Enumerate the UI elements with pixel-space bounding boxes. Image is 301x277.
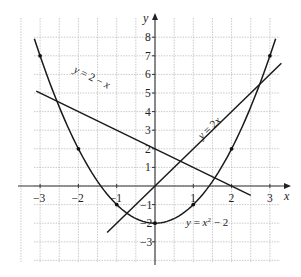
y-tick-label: −1 (140, 199, 152, 211)
series-y-2x (107, 63, 281, 232)
label-parabola: y = x2 − 2 (185, 216, 228, 228)
data-point (230, 147, 234, 151)
x-tick-label: 2 (229, 192, 235, 204)
data-point (268, 54, 272, 58)
data-point (191, 203, 195, 207)
y-tick-label: −3 (140, 236, 152, 248)
series-y-2-x (36, 91, 250, 195)
y-axis-arrow-icon (152, 13, 158, 20)
y-tick-label: 7 (145, 50, 151, 62)
x-tick-label: −3 (33, 192, 45, 204)
y-tick-label: 5 (145, 87, 151, 99)
data-point (38, 54, 42, 58)
function-graph: −3−2−1123−3−2−112345678 x y y = 2 − x y … (0, 0, 301, 277)
x-tick-label: −1 (110, 192, 122, 204)
data-point (77, 147, 81, 151)
x-axis-label: x (283, 189, 290, 203)
y-tick-label: 6 (145, 68, 151, 80)
data-point (115, 203, 119, 207)
y-tick-label: 1 (145, 161, 151, 173)
x-tick-label: −2 (71, 192, 83, 204)
label-line-2-minus-x: y = 2 − x (71, 63, 112, 91)
y-axis-label: y (142, 11, 149, 25)
y-tick-label: 8 (145, 31, 151, 43)
data-point (153, 221, 157, 225)
x-tick-label: 3 (267, 192, 273, 204)
y-tick-label: 3 (145, 124, 151, 136)
y-tick-label: 4 (145, 106, 151, 118)
label-line-2x: y = 2x (194, 114, 223, 142)
